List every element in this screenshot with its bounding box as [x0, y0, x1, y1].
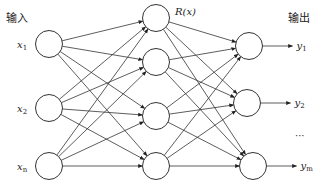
hidden-node-3	[143, 103, 170, 130]
edge-input3-hidden3	[61, 122, 144, 161]
nodes	[36, 5, 267, 180]
hidden-node-4	[143, 153, 170, 180]
input-label-1: x1	[17, 39, 27, 52]
hidden-activation-label: R(x)	[174, 6, 196, 17]
hidden-node-1	[143, 5, 170, 32]
output-node-3	[240, 153, 267, 180]
edge-hidden3-output2	[169, 105, 233, 114]
input-label-2: x2	[17, 103, 27, 116]
input-title: 输入	[6, 11, 28, 25]
output-title: 输出	[288, 11, 310, 25]
edge-hidden1-output3	[163, 29, 245, 154]
output-node-2	[234, 90, 261, 117]
input-label-3: xn	[17, 161, 28, 174]
input-node-1	[36, 31, 63, 58]
neural-network-diagram: 输入 输出 R(x) ··· x1x2xny1y2ym	[0, 0, 330, 189]
input-node-3	[36, 153, 63, 180]
edge-input1-hidden3	[60, 52, 145, 109]
output-ellipsis: ···	[295, 130, 305, 141]
output-label-1: y1	[296, 40, 307, 53]
edge-hidden2-output3	[165, 72, 244, 156]
edge-input2-hidden4	[61, 114, 144, 159]
output-label-2: y2	[294, 97, 305, 110]
edge-input1-hidden1	[62, 21, 143, 41]
edge-hidden3-output1	[167, 54, 238, 108]
edge-input2-hidden1	[59, 27, 145, 100]
output-label-3: ym	[300, 160, 314, 173]
output-node-1	[236, 33, 263, 60]
edge-hidden4-output2	[167, 111, 236, 159]
input-node-2	[36, 95, 63, 122]
hidden-node-2	[143, 49, 170, 76]
